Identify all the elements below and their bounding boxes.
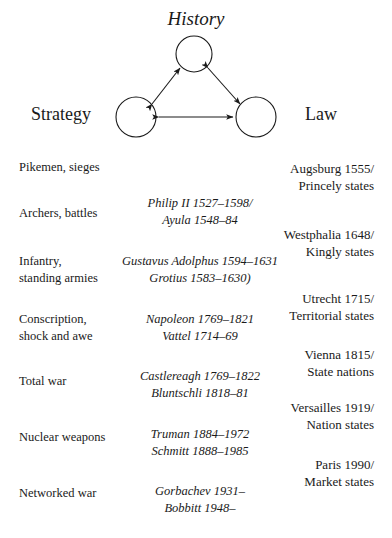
matrix-entry: Napoleon 1769–1821Vattel 1714–69 [118, 311, 282, 344]
matrix-entry: Westphalia 1648/Kingly states [268, 226, 374, 260]
matrix-entry-line: Versailles 1919/ [268, 399, 374, 416]
law-column: Augsburg 1555/Princely statesWestphalia … [268, 150, 374, 538]
matrix-entry: Gorbachev 1931–Bobbitt 1948– [118, 483, 282, 516]
matrix-entry-line: Market states [268, 473, 374, 490]
matrix-entry: Vienna 1815/State nations [268, 346, 374, 380]
node-label-law: Law [305, 104, 337, 125]
three-column-matrix: Pikemen, siegesArchers, battlesInfantry,… [0, 150, 392, 538]
node-label-strategy: Strategy [31, 104, 91, 125]
matrix-entry-line: Utrecht 1715/ [268, 290, 374, 307]
matrix-entry-line: Kingly states [268, 243, 374, 260]
matrix-entry: Versailles 1919/Nation states [268, 399, 374, 433]
matrix-entry: Utrecht 1715/Territorial states [268, 290, 374, 324]
node-circle-strategy [116, 97, 156, 137]
matrix-entry-line: Paris 1990/ [268, 456, 374, 473]
matrix-entry-line: Napoleon 1769–1821 [118, 311, 282, 328]
matrix-entry: Castlereagh 1769–1822Bluntschli 1818–81 [118, 368, 282, 401]
matrix-entry-line: Vienna 1815/ [268, 346, 374, 363]
matrix-entry-line: Truman 1884–1972 [118, 426, 282, 443]
matrix-entry-line: Augsburg 1555/ [268, 160, 374, 177]
matrix-entry-line: State nations [268, 363, 374, 380]
edge-strategy-history [152, 68, 180, 104]
matrix-entry-line: Gustavus Adolphus 1594–1631 [118, 253, 282, 270]
triangle-diagram: History Strategy Law [0, 0, 392, 150]
matrix-entry: Augsburg 1555/Princely states [268, 160, 374, 194]
matrix-entry-line: Vattel 1714–69 [118, 328, 282, 345]
matrix-entry-line: Bluntschli 1818–81 [118, 385, 282, 402]
node-label-history: History [0, 8, 392, 30]
matrix-entry-line: Ayula 1548–84 [118, 212, 282, 229]
matrix-entry-line: Nation states [268, 416, 374, 433]
matrix-entry-line: Gorbachev 1931– [118, 483, 282, 500]
matrix-entry-line: Bobbitt 1948– [118, 500, 282, 517]
node-circle-law [236, 97, 276, 137]
matrix-entry-line: Grotius 1583–1630) [118, 270, 282, 287]
edge-history-law [208, 68, 240, 104]
matrix-entry: Philip II 1527–1598/Ayula 1548–84 [118, 195, 282, 228]
matrix-entry-line: Princely states [268, 177, 374, 194]
matrix-entry: Gustavus Adolphus 1594–1631Grotius 1583–… [118, 253, 282, 286]
history-column: Philip II 1527–1598/Ayula 1548–84Gustavu… [118, 150, 282, 538]
matrix-entry-line: Philip II 1527–1598/ [118, 195, 282, 212]
matrix-entry: Paris 1990/Market states [268, 456, 374, 490]
matrix-entry-line: Schmitt 1888–1985 [118, 443, 282, 460]
node-circle-history [176, 36, 212, 72]
matrix-entry-line: Westphalia 1648/ [268, 226, 374, 243]
matrix-entry-line: Territorial states [268, 307, 374, 324]
matrix-entry-line: Castlereagh 1769–1822 [118, 368, 282, 385]
matrix-entry: Truman 1884–1972Schmitt 1888–1985 [118, 426, 282, 459]
